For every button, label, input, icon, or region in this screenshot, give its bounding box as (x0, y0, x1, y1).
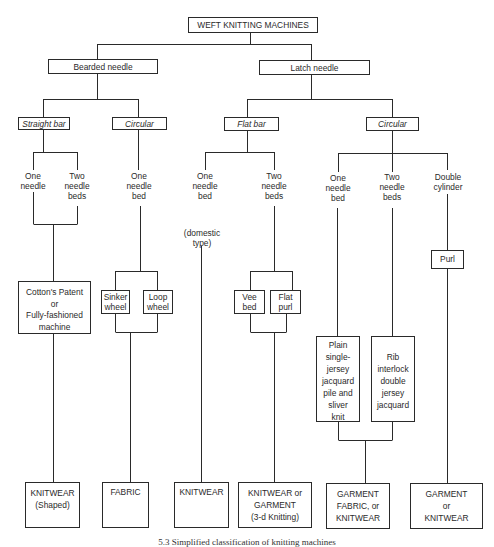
plain-single-jersey-box: Plain single- jersey jacquard pile and s… (316, 339, 360, 423)
fb-two-needle-beds-label: Two needle beds (253, 171, 295, 201)
flat-bar-label: Flat bar (224, 119, 279, 129)
bearded-needle-label: Bearded needle (48, 62, 158, 72)
figure-caption: 5.3 Simplified classification of knittin… (0, 537, 494, 547)
product-garment-or-knitwear: GARMENT or KNITWEAR (410, 488, 483, 524)
sb-two-needle-beds-label: Two needle beds (57, 171, 97, 201)
latch-needle-label: Latch needle (259, 63, 370, 73)
product-fabric: FABRIC (102, 487, 149, 497)
product-garment-fabric-knitwear: GARMENT FABRIC, or KNITWEAR (326, 488, 390, 524)
cb-one-needle-bed-label: One needle bed (118, 171, 160, 201)
straight-bar-label: Straight bar (18, 119, 70, 129)
circular-bearded-label: Circular (112, 119, 167, 129)
product-knitwear-shaped: KNITWEAR (Shaped) (25, 487, 80, 511)
product-knitwear: KNITWEAR (174, 487, 229, 497)
rib-interlock-box: Rib interlock double jersey jacquard (371, 351, 415, 411)
circular-latch-label: Circular (366, 119, 419, 129)
cl-double-cylinder-label: Double cylinder (423, 172, 473, 192)
loop-wheel-box: Loop wheel (143, 292, 173, 312)
cl-two-needle-beds-label: Two needle beds (371, 172, 413, 202)
cottons-patent-box: Cotton's Patent or Fully-fashioned machi… (18, 287, 91, 333)
vee-bed-box: Vee bed (234, 292, 265, 312)
purl-box: Purl (431, 254, 464, 264)
fb-one-needle-bed-label: One needle bed (184, 171, 226, 201)
cl-one-needle-bed-label: One needle bed (317, 173, 359, 203)
root-title: WEFT KNITTING MACHINES (188, 20, 318, 30)
sb-one-needle-label: One needle (13, 171, 53, 191)
domestic-type-note: (domestic type) (176, 228, 228, 248)
sinker-wheel-box: Sinker wheel (101, 292, 130, 312)
flat-purl-box: Flat purl (270, 292, 301, 312)
product-knitwear-or-garment: KNITWEAR or GARMENT (3-d Knitting) (238, 487, 312, 523)
